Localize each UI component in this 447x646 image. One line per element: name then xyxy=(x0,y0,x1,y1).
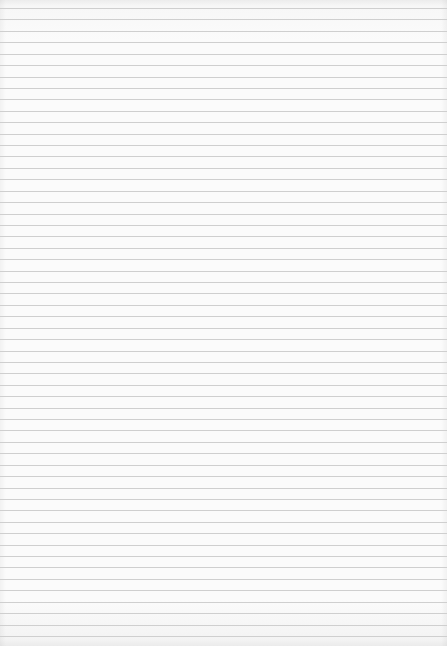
ruled-line xyxy=(0,396,447,397)
ruled-line xyxy=(0,351,447,352)
ruled-line xyxy=(0,602,447,603)
ruled-line xyxy=(0,567,447,568)
ruled-line xyxy=(0,54,447,55)
lined-paper-sheet xyxy=(0,0,447,646)
ruled-line xyxy=(0,191,447,192)
ruled-line xyxy=(0,625,447,626)
ruled-line xyxy=(0,465,447,466)
ruled-line xyxy=(0,385,447,386)
ruled-line xyxy=(0,556,447,557)
ruled-line xyxy=(0,488,447,489)
ruled-line xyxy=(0,613,447,614)
ruled-line xyxy=(0,8,447,9)
ruled-line xyxy=(0,168,447,169)
ruled-line xyxy=(0,145,447,146)
ruled-line xyxy=(0,430,447,431)
ruled-line xyxy=(0,545,447,546)
ruled-line xyxy=(0,19,447,20)
ruled-line xyxy=(0,77,447,78)
ruled-line xyxy=(0,476,447,477)
ruled-line xyxy=(0,111,447,112)
ruled-line xyxy=(0,499,447,500)
ruled-line xyxy=(0,65,447,66)
ruled-line xyxy=(0,590,447,591)
ruled-line xyxy=(0,442,447,443)
ruled-line xyxy=(0,282,447,283)
ruled-line xyxy=(0,408,447,409)
ruled-line xyxy=(0,134,447,135)
ruled-line xyxy=(0,31,447,32)
ruled-line xyxy=(0,259,447,260)
ruled-line xyxy=(0,522,447,523)
ruled-line xyxy=(0,42,447,43)
ruled-line xyxy=(0,533,447,534)
ruled-line xyxy=(0,636,447,637)
ruled-line xyxy=(0,293,447,294)
ruled-line xyxy=(0,510,447,511)
ruled-line xyxy=(0,214,447,215)
ruled-line xyxy=(0,362,447,363)
ruled-line xyxy=(0,419,447,420)
ruled-line xyxy=(0,271,447,272)
ruled-line xyxy=(0,156,447,157)
ruled-line xyxy=(0,305,447,306)
ruled-line xyxy=(0,122,447,123)
ruled-line xyxy=(0,579,447,580)
ruled-line xyxy=(0,179,447,180)
paper-left-shade xyxy=(0,0,6,646)
ruled-line xyxy=(0,328,447,329)
ruled-line xyxy=(0,373,447,374)
paper-right-shade xyxy=(441,0,447,646)
ruled-line xyxy=(0,225,447,226)
ruled-line xyxy=(0,316,447,317)
ruled-line xyxy=(0,88,447,89)
ruled-line xyxy=(0,453,447,454)
ruled-line xyxy=(0,202,447,203)
ruled-line xyxy=(0,236,447,237)
ruled-line xyxy=(0,99,447,100)
ruled-line xyxy=(0,248,447,249)
ruled-line xyxy=(0,339,447,340)
